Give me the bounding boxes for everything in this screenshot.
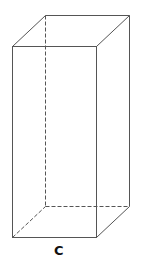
top-face xyxy=(13,16,130,47)
bottom-right-depth-edge xyxy=(97,207,130,238)
hidden-bottom-left-depth-edge xyxy=(13,207,46,238)
edge-label-c: C xyxy=(54,243,64,258)
front-face xyxy=(13,47,97,238)
prism-diagram: C xyxy=(0,0,146,262)
